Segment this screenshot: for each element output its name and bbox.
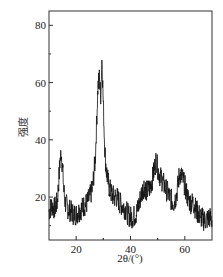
y-axis-label: 强度 — [17, 117, 29, 137]
plot-area — [49, 60, 212, 231]
y-axis-ticks: 20406080 — [35, 19, 53, 225]
x-tick-label: 60 — [179, 243, 191, 255]
xrd-chart: 20406080 204060 2θ/(°) 强度 — [0, 0, 223, 277]
x-axis-label: 2θ/(°) — [117, 252, 143, 265]
y-tick-label: 20 — [35, 191, 47, 203]
y-tick-label: 80 — [35, 19, 47, 31]
xrd-line — [49, 60, 212, 231]
y-tick-label: 60 — [35, 77, 47, 89]
y-tick-label: 40 — [35, 134, 47, 146]
x-tick-label: 20 — [71, 243, 83, 255]
